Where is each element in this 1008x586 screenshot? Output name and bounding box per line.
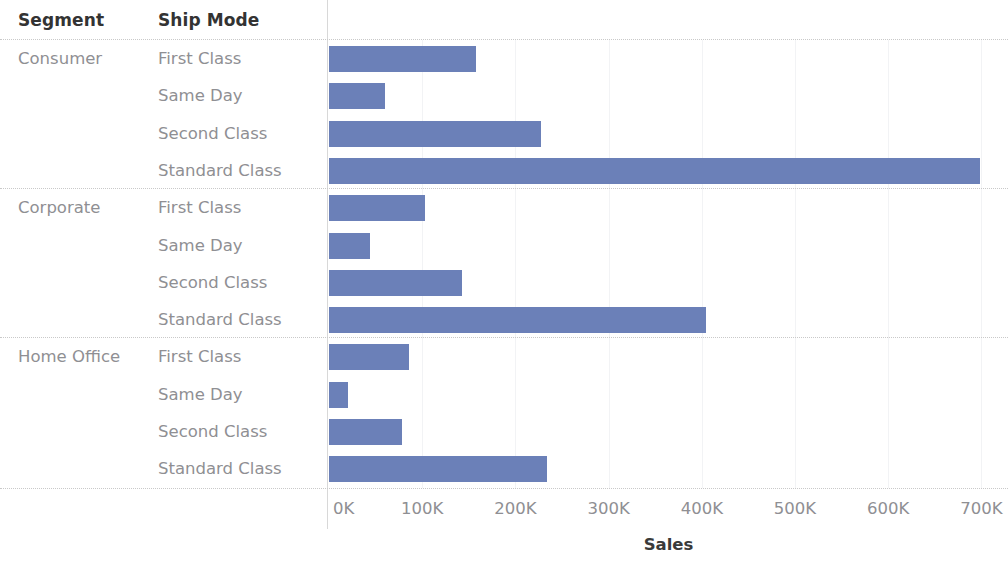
row-ship-mode-label[interactable]: Same Day <box>158 236 243 255</box>
table-row[interactable]: Standard Class <box>0 301 1008 339</box>
x-axis-tick-300K: 300K <box>587 499 629 518</box>
segment-separator-corporate <box>0 337 1008 338</box>
bar[interactable] <box>329 419 402 445</box>
table-header: Segment Ship Mode <box>0 0 1008 40</box>
row-ship-mode-label[interactable]: Same Day <box>158 86 243 105</box>
row-ship-mode-label[interactable]: First Class <box>158 347 241 366</box>
row-segment-label[interactable]: Home Office <box>18 347 120 366</box>
x-axis-tick-500K: 500K <box>774 499 816 518</box>
segment-separator-consumer <box>0 188 1008 189</box>
x-axis-tick-400K: 400K <box>681 499 723 518</box>
bar[interactable] <box>329 158 980 184</box>
table-row[interactable]: Second Class <box>0 115 1008 153</box>
table-row[interactable]: Home OfficeFirst Class <box>0 338 1008 376</box>
row-ship-mode-label[interactable]: Standard Class <box>158 310 282 329</box>
bar[interactable] <box>329 83 385 109</box>
row-ship-mode-label[interactable]: Second Class <box>158 124 267 143</box>
bar[interactable] <box>329 195 425 221</box>
table-row[interactable]: Same Day <box>0 227 1008 265</box>
table-row[interactable]: Same Day <box>0 77 1008 115</box>
bar[interactable] <box>329 121 541 147</box>
row-segment-label[interactable]: Corporate <box>18 198 100 217</box>
table-row[interactable]: Second Class <box>0 413 1008 451</box>
sales-by-segment-ship-mode-chart: Segment Ship Mode ConsumerFirst ClassSam… <box>0 0 1008 586</box>
table-row[interactable]: CorporateFirst Class <box>0 189 1008 227</box>
header-separator <box>0 39 1008 40</box>
bar[interactable] <box>329 307 706 333</box>
row-segment-label[interactable]: Consumer <box>18 49 102 68</box>
bar[interactable] <box>329 382 348 408</box>
x-axis-title: Sales <box>329 535 1008 554</box>
table-row[interactable]: Second Class <box>0 264 1008 302</box>
row-ship-mode-label[interactable]: Standard Class <box>158 161 282 180</box>
x-axis-tick-600K: 600K <box>867 499 909 518</box>
table-row[interactable]: Same Day <box>0 376 1008 414</box>
bar[interactable] <box>329 270 462 296</box>
row-ship-mode-label[interactable]: First Class <box>158 198 241 217</box>
column-header-ship-mode[interactable]: Ship Mode <box>158 10 259 30</box>
column-header-segment[interactable]: Segment <box>18 10 104 30</box>
bar[interactable] <box>329 46 476 72</box>
table-row[interactable]: ConsumerFirst Class <box>0 40 1008 78</box>
row-ship-mode-label[interactable]: Standard Class <box>158 459 282 478</box>
bar[interactable] <box>329 344 409 370</box>
bar[interactable] <box>329 456 547 482</box>
row-ship-mode-label[interactable]: Second Class <box>158 273 267 292</box>
row-ship-mode-label[interactable]: First Class <box>158 49 241 68</box>
x-axis-tick-700K: 700K <box>960 499 1002 518</box>
x-axis: 0K100K200K300K400K500K600K700K <box>329 489 1008 529</box>
row-ship-mode-label[interactable]: Second Class <box>158 422 267 441</box>
x-axis-tick-0K: 0K <box>333 499 354 518</box>
table-row[interactable]: Standard Class <box>0 152 1008 190</box>
table-row[interactable]: Standard Class <box>0 450 1008 488</box>
x-axis-tick-100K: 100K <box>401 499 443 518</box>
row-ship-mode-label[interactable]: Same Day <box>158 385 243 404</box>
bar[interactable] <box>329 233 370 259</box>
x-axis-tick-200K: 200K <box>494 499 536 518</box>
